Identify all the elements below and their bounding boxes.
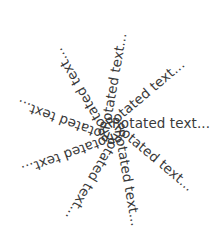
rotated-text-figure: Rotated text... Rotated text... Rotated … bbox=[0, 0, 217, 231]
